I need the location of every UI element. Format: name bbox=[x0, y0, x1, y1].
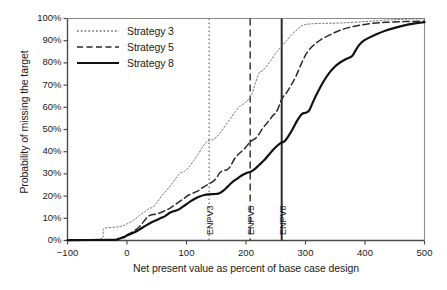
x-axis-tick-label: 100 bbox=[165, 247, 209, 258]
x-axis-tick-label: 500 bbox=[403, 247, 447, 258]
x-axis-tick-label: 0 bbox=[105, 247, 149, 258]
chart-figure: Probability of missing the target Net pr… bbox=[0, 0, 447, 290]
vertical-marker-label-enpv3: ENPV3 bbox=[205, 205, 215, 235]
y-axis-tick-label: 0% bbox=[20, 234, 62, 245]
legend-item-strategy-8: Strategy 8 bbox=[76, 56, 174, 69]
legend-label-strategy-3: Strategy 3 bbox=[127, 25, 174, 37]
y-axis-tick-label: 60% bbox=[20, 101, 62, 112]
y-axis-tick-label: 40% bbox=[20, 145, 62, 156]
legend-item-strategy-5: Strategy 5 bbox=[76, 40, 174, 53]
vertical-marker-label-enpv5: ENPV5 bbox=[246, 205, 256, 235]
legend-key-dashed-icon bbox=[76, 42, 120, 52]
x-axis-tick-label: 400 bbox=[343, 247, 387, 258]
legend-key-dotted-icon bbox=[76, 26, 120, 36]
legend-key-solid-icon bbox=[76, 58, 120, 68]
y-axis-tick-label: 50% bbox=[20, 123, 62, 134]
y-axis-tick-label: 30% bbox=[20, 167, 62, 178]
y-axis-tick-label: 80% bbox=[20, 56, 62, 67]
legend-item-strategy-3: Strategy 3 bbox=[76, 24, 174, 37]
x-axis-tick-label: −100 bbox=[46, 247, 90, 258]
y-axis-tick-label: 70% bbox=[20, 79, 62, 90]
y-axis-tick-label: 90% bbox=[20, 34, 62, 45]
x-axis-tick-label: 200 bbox=[224, 247, 268, 258]
x-axis-title: Net present value as percent of base cas… bbox=[67, 262, 425, 274]
legend-label-strategy-8: Strategy 8 bbox=[127, 57, 174, 69]
vertical-marker-label-enpv8: ENPV8 bbox=[278, 205, 288, 235]
y-axis-tick-label: 10% bbox=[20, 212, 62, 223]
y-axis-tick-label: 20% bbox=[20, 190, 62, 201]
chart-legend: Strategy 3 Strategy 5 Strategy 8 bbox=[76, 24, 174, 69]
x-axis-tick-label: 300 bbox=[284, 247, 328, 258]
legend-label-strategy-5: Strategy 5 bbox=[127, 41, 174, 53]
y-axis-tick-label: 100% bbox=[20, 12, 62, 23]
